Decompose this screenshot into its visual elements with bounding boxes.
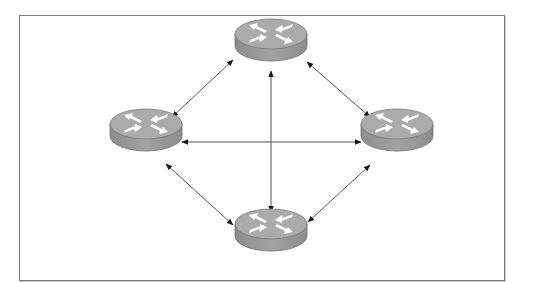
- router-top-router-icon: [235, 19, 307, 61]
- network-diagram: [0, 0, 545, 283]
- router-right-router-icon: [361, 109, 433, 151]
- link-router-right-router-bottom: [308, 165, 370, 222]
- link-router-left-router-bottom: [166, 164, 233, 225]
- link-router-left-router-top: [172, 60, 233, 117]
- router-left-router-icon: [110, 109, 182, 151]
- router-bottom-router-icon: [235, 209, 307, 251]
- links-layer: [166, 60, 370, 225]
- link-router-top-router-right: [307, 62, 370, 117]
